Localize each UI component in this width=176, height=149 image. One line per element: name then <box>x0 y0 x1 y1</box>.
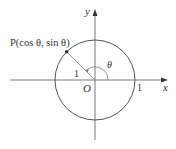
point-label: P(cos θ, sin θ) <box>10 37 70 49</box>
point-p <box>65 50 69 54</box>
radius-length-label: 1 <box>74 68 79 79</box>
x-axis-label: x <box>162 81 168 93</box>
x-intercept-label: 1 <box>137 82 142 93</box>
y-axis-label: y <box>84 5 90 17</box>
y-axis-arrow-icon <box>93 9 98 16</box>
origin-label: O <box>83 82 91 94</box>
diagram-svg: y x O 1 1 θ P(cos θ, sin θ) <box>0 0 176 149</box>
unit-circle-diagram: y x O 1 1 θ P(cos θ, sin θ) <box>0 0 176 149</box>
theta-label: θ <box>107 59 112 70</box>
radius-line <box>67 52 95 80</box>
